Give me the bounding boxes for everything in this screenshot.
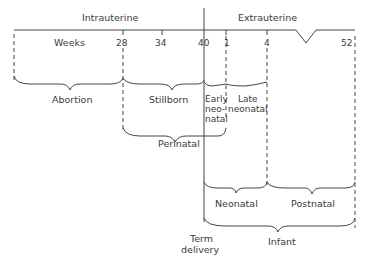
extrauterine-header: Extrauterine (238, 12, 297, 23)
term-delivery-label-1: Term (190, 233, 213, 244)
abortion-brace (14, 76, 123, 90)
stillborn-label: Stillborn (149, 94, 188, 105)
late-neonatal-label-1: Late (238, 94, 258, 105)
late-neonatal-label-2: neonatal (228, 104, 268, 115)
tick-label-28: 28 (116, 38, 127, 49)
neonatal-brace (204, 182, 267, 193)
abortion-label: Abortion (52, 94, 92, 105)
infant-brace (204, 218, 355, 232)
early-neonatal-label-2: neo- (205, 104, 225, 115)
postnatal-brace (267, 182, 355, 194)
intrauterine-header: Intrauterine (82, 12, 138, 23)
postnatal-label: Postnatal (291, 198, 335, 209)
tick-label-34: 34 (155, 38, 166, 49)
tick-label-4: 4 (264, 38, 270, 49)
early-neonatal-label-1: Early (205, 94, 228, 105)
perinatal-label: Perinatal (158, 138, 200, 149)
weeks-label: Weeks (54, 37, 85, 48)
tick-label-1: 1 (224, 38, 230, 49)
tick-label-40: 40 (198, 38, 209, 49)
tick-label-52: 52 (341, 38, 352, 49)
early-neonatal-label-3: natal (205, 114, 228, 125)
infant-label: Infant (268, 236, 296, 247)
neonatal-label: Neonatal (215, 198, 258, 209)
stillborn-brace (123, 78, 204, 90)
early-late-brace (204, 82, 267, 86)
term-delivery-label-2: delivery (181, 244, 219, 255)
